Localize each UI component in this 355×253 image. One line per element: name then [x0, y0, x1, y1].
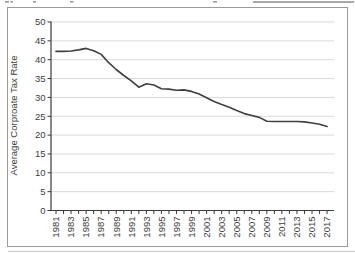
x-tick-label: 2017	[321, 217, 332, 238]
x-tick-label: 1999	[186, 217, 197, 238]
x-tick-label: 2005	[231, 217, 242, 238]
x-tick-label: 1985	[80, 217, 91, 238]
y-tick-label: 50	[35, 16, 46, 27]
x-tick-label: 2015	[306, 217, 317, 238]
cropped-caption-remnant	[5, 1, 9, 3]
cropped-caption-remnant	[11, 1, 14, 3]
cropped-caption-remnant	[253, 1, 354, 3]
y-tick-label: 45	[35, 35, 46, 46]
x-tick-label: 2011	[276, 217, 287, 237]
y-tick-label: 20	[35, 129, 46, 140]
x-tick-label: 1997	[171, 217, 182, 238]
x-tick-label: 2001	[201, 217, 212, 238]
x-tick-label: 2007	[246, 217, 257, 238]
y-axis-title: Average Corproate Tax Rate	[8, 55, 19, 175]
y-tick-label: 0	[40, 205, 45, 216]
y-tick-label: 35	[35, 73, 46, 84]
y-tick-label: 10	[35, 167, 46, 178]
y-tick-label: 5	[40, 186, 45, 197]
y-tick-label: 40	[35, 54, 46, 65]
x-tick-label: 1995	[156, 217, 167, 238]
x-tick-label: 1983	[65, 217, 76, 238]
y-tick-label: 25	[35, 111, 46, 122]
x-tick-label: 2013	[291, 217, 302, 238]
cropped-caption-remnant	[213, 1, 217, 3]
line-chart: 0510152025303540455019811983198519871989…	[0, 0, 355, 253]
cropped-bottom-remnant	[8, 251, 355, 252]
x-tick-label: 1993	[141, 217, 152, 238]
screenshot-root: 0510152025303540455019811983198519871989…	[0, 0, 355, 253]
y-tick-label: 30	[35, 92, 46, 103]
cropped-caption-remnant	[70, 1, 74, 3]
y-tick-label: 15	[35, 148, 46, 159]
x-tick-label: 1981	[50, 217, 61, 238]
cropped-caption-remnant	[33, 1, 36, 3]
x-tick-label: 1989	[111, 217, 122, 238]
x-tick-label: 1991	[126, 217, 137, 238]
chart-generated-layer: 0510152025303540455019811983198519871989…	[5, 1, 355, 252]
x-tick-label: 2009	[261, 217, 272, 238]
x-tick-label: 2003	[216, 217, 227, 238]
x-tick-label: 1987	[95, 217, 106, 238]
